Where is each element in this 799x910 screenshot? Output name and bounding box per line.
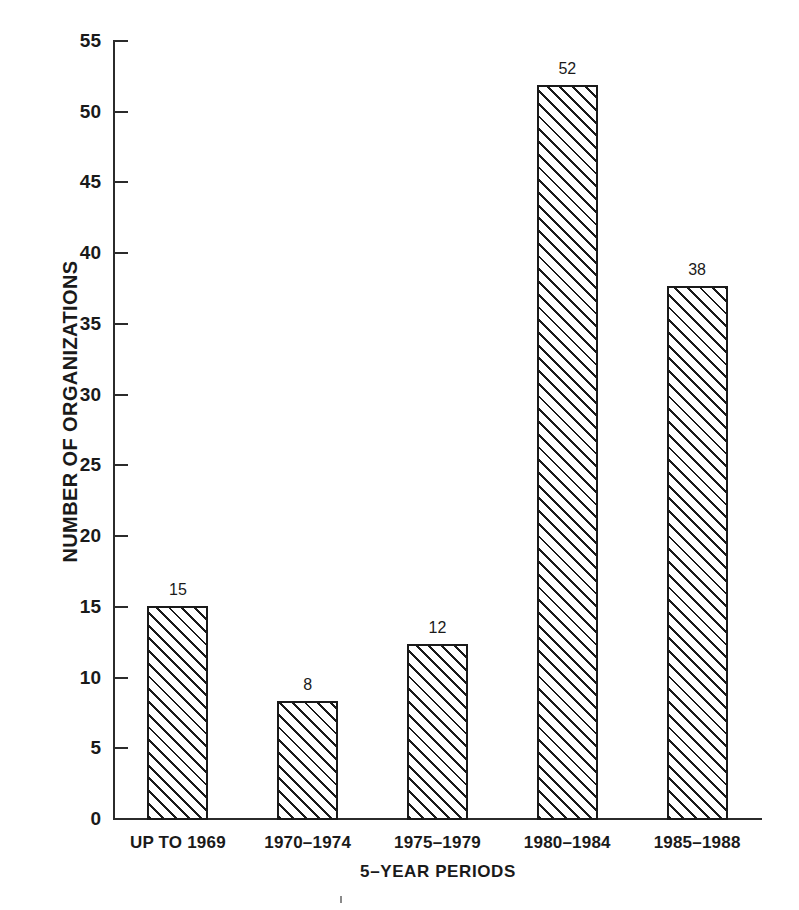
y-axis-tick-label: 55 (55, 31, 101, 50)
bar (407, 644, 468, 820)
y-axis-tick-label: 0 (55, 809, 101, 828)
bar (667, 286, 728, 820)
y-axis-tick (115, 464, 128, 466)
bar-value-label: 12 (398, 620, 478, 636)
y-axis-tick (115, 747, 128, 749)
y-axis-tick-label: 45 (55, 172, 101, 191)
bar-chart: NUMBER OF ORGANIZATIONS 0510152025303540… (0, 0, 799, 910)
y-axis-tick (115, 252, 128, 254)
y-axis-tick-label: 25 (55, 455, 101, 474)
y-axis-tick (115, 181, 128, 183)
y-axis-tick-label: 50 (55, 102, 101, 121)
bar (147, 606, 208, 820)
y-axis-tick (115, 535, 128, 537)
plot-area: 051015202530354045505515UP TO 196981970–… (0, 0, 799, 910)
y-axis-tick-label: 35 (55, 314, 101, 333)
y-axis-tick-label: 10 (55, 668, 101, 687)
y-axis-tick-label: 20 (55, 526, 101, 545)
bar-value-label: 52 (527, 61, 607, 77)
bar (537, 85, 598, 820)
y-axis-tick-label: 40 (55, 243, 101, 262)
x-axis-category-label: 1970–1974 (233, 834, 383, 851)
y-axis-tick (115, 677, 128, 679)
bar-value-label: 38 (657, 262, 737, 278)
bar-value-label: 15 (138, 582, 218, 598)
y-axis-tick-label: 5 (55, 738, 101, 757)
x-axis-category-label: 1980–1984 (492, 834, 642, 851)
y-axis-tick (115, 323, 128, 325)
scan-artifact-speck (340, 896, 342, 903)
y-axis-line (113, 40, 115, 820)
y-axis-tick (115, 606, 128, 608)
y-axis-tick (115, 111, 128, 113)
x-axis-category-label: 1985–1988 (622, 834, 772, 851)
x-axis-category-label: UP TO 1969 (103, 834, 253, 851)
bar (277, 701, 338, 820)
y-axis-tick-label: 30 (55, 385, 101, 404)
y-axis-tick (115, 40, 128, 42)
y-axis-tick-label: 15 (55, 597, 101, 616)
bar-value-label: 8 (268, 677, 348, 693)
y-axis-tick (115, 394, 128, 396)
x-axis-title: 5–YEAR PERIODS (113, 862, 763, 882)
x-axis-category-label: 1975–1979 (363, 834, 513, 851)
